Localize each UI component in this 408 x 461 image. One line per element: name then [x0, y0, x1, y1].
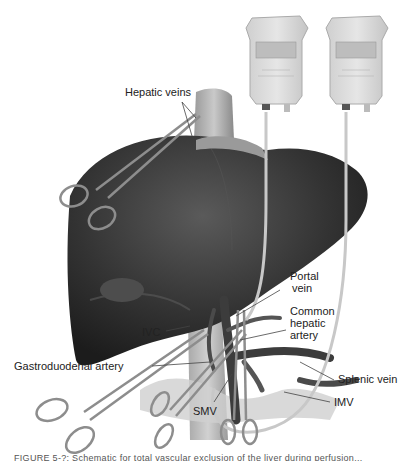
label-common-hepatic-2: hepatic	[290, 317, 325, 329]
label-hepatic-veins: Hepatic veins	[125, 86, 191, 98]
perfusion-bag-right	[326, 16, 388, 112]
figure-caption-text: FIGURE 5-?: Schematic for total vascular…	[14, 452, 408, 461]
label-portal-vein-1: Portal	[290, 270, 319, 282]
label-portal-vein-2: vein	[292, 282, 312, 294]
label-smv: SMV	[193, 405, 217, 417]
label-ivc: IVC	[142, 326, 160, 338]
liver-perfusion-illustration	[0, 0, 408, 461]
label-gastroduodenal-artery: Gastroduodenal artery	[14, 360, 123, 372]
suprahepatic-ivc	[194, 89, 234, 140]
perfusion-bag-left	[246, 16, 308, 112]
figure-caption: FIGURE 5-?: Schematic for total vascular…	[14, 452, 408, 461]
label-imv: IMV	[334, 396, 354, 408]
label-common-hepatic-3: artery	[290, 329, 318, 341]
label-splenic-vein: Splenic vein	[338, 373, 397, 385]
label-common-hepatic-1: Common	[290, 305, 335, 317]
